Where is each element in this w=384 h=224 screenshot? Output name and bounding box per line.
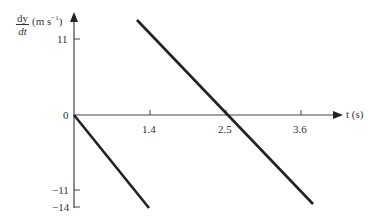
x-tick-label-2.5: 2.5	[218, 123, 232, 135]
y-unit-close: )	[59, 15, 63, 27]
y-axis-label: dy dt (m s−1)	[16, 12, 62, 37]
y-label-denominator: dt	[16, 25, 29, 37]
series-line-1	[74, 115, 149, 208]
y-label-numerator: dy	[16, 12, 29, 25]
y-axis-fraction: dy dt	[16, 12, 29, 37]
series-line-2	[137, 20, 313, 204]
x-tick-label-1.4: 1.4	[142, 123, 156, 135]
y-label-unit: (m s−1)	[32, 15, 62, 27]
y-unit-text: (m s	[32, 15, 51, 27]
y-tick-label-neg14: −14	[52, 201, 69, 213]
x-axis-label: t (s)	[346, 108, 363, 120]
y-unit-exponent: −1	[51, 14, 58, 22]
y-axis-arrow-icon	[70, 12, 78, 22]
y-tick-label-neg11: −11	[52, 184, 69, 196]
x-tick-label-3.6: 3.6	[293, 123, 307, 135]
y-tick-label-11: 11	[57, 33, 68, 45]
origin-label: 0	[63, 109, 69, 121]
x-axis-arrow-icon	[333, 111, 343, 119]
